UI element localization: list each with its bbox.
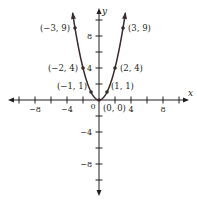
data-point: [105, 90, 109, 94]
data-point: [81, 66, 85, 70]
point-label: (−1, 1): [57, 81, 87, 91]
x-axis-arrow-right-icon: [183, 98, 189, 103]
y-tick-label: −4: [80, 128, 92, 137]
point-label: (2, 4): [120, 63, 143, 73]
data-point: [97, 98, 101, 102]
x-tick-label: −4: [61, 105, 73, 114]
origin-label: 0: [90, 102, 95, 111]
data-point: [121, 26, 125, 30]
x-tick-label: −8: [29, 105, 41, 114]
x-tick-label: 4: [128, 105, 133, 114]
x-axis-arrow-left-icon: [8, 98, 14, 103]
y-tick-label: 4: [87, 64, 92, 73]
x-tick-label: 8: [160, 105, 165, 114]
point-label: (3, 9): [128, 23, 151, 33]
x-axis-label: x: [188, 88, 193, 98]
curve-arrow-right-icon: [122, 12, 127, 19]
y-axis-arrow-down-icon: [97, 190, 102, 196]
point-label: (1, 1): [111, 81, 134, 91]
y-tick-label: −8: [80, 160, 92, 169]
y-axis-label: y: [101, 6, 108, 16]
point-label: (0, 0): [103, 103, 126, 113]
curve-arrow-left-icon: [71, 12, 76, 19]
y-tick-label: 8: [87, 32, 92, 41]
point-label: (−3, 9): [40, 23, 70, 33]
data-point: [113, 66, 117, 70]
data-point: [89, 90, 93, 94]
parabola-graph: (−3, 9)(3, 9)(−2, 4)(2, 4)(−1, 1)(1, 1)(…: [0, 0, 197, 204]
y-axis-arrow-up-icon: [97, 8, 102, 14]
data-point: [73, 26, 77, 30]
point-label: (−2, 4): [48, 63, 78, 73]
